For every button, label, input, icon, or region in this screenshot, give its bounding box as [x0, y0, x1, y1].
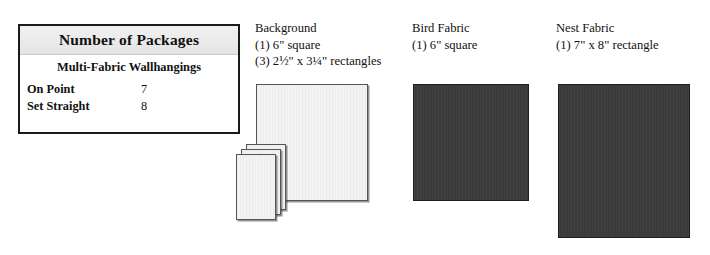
fabric-name-background: Background [255, 20, 381, 37]
fabric-column-bird: Bird Fabric (1) 6" square [412, 20, 477, 53]
fabric-name-bird: Bird Fabric [412, 20, 477, 37]
swatch-background-rectangle-1 [236, 154, 276, 220]
row-value-on-point: 7 [141, 81, 147, 98]
fabric-column-nest: Nest Fabric (1) 7" x 8" rectangle [556, 20, 659, 53]
fabric-cut-line-background-2: (3) 2½" x 3¼" rectangles [255, 53, 381, 70]
packages-table-subheader: Multi-Fabric Wallhangings [20, 55, 238, 80]
fabric-cut-line-bird-1: (1) 6" square [412, 37, 477, 54]
packages-table: Number of Packages Multi-Fabric Wallhang… [18, 24, 240, 134]
packages-table-header: Number of Packages [20, 26, 238, 55]
fabric-cut-line-nest-1: (1) 7" x 8" rectangle [556, 37, 659, 54]
row-label-set-straight: Set Straight [27, 98, 141, 115]
row-value-set-straight: 8 [141, 98, 147, 115]
swatch-bird-square [413, 84, 529, 201]
packages-table-subtitle: Multi-Fabric Wallhangings [57, 60, 201, 75]
packages-table-body: On Point 7 Set Straight 8 [20, 80, 238, 115]
table-row: Set Straight 8 [27, 98, 238, 115]
packages-table-title: Number of Packages [59, 31, 199, 49]
fabric-cut-line-background-1: (1) 6" square [255, 37, 381, 54]
row-label-on-point: On Point [27, 81, 141, 98]
fabric-name-nest: Nest Fabric [556, 20, 659, 37]
fabric-column-background: Background (1) 6" square (3) 2½" x 3¼" r… [255, 20, 381, 70]
table-row: On Point 7 [27, 81, 238, 98]
swatch-nest-rectangle [558, 84, 690, 238]
